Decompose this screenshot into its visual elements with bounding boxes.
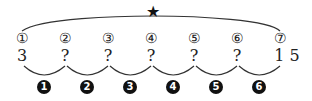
step-arc-1 [24,66,65,75]
position-5: ⑤ [184,30,204,46]
step-arc-6 [239,66,280,75]
position-7: ⑦ [270,30,290,46]
step-badge-1: 1 [37,80,51,94]
step-badge-6: 6 [252,80,266,94]
value-1: 3 [17,47,27,65]
position-3: ③ [98,30,118,46]
position-6: ⑥ [227,30,247,46]
position-2: ② [55,30,75,46]
step-arc-5 [196,66,237,75]
step-arc-3 [110,66,151,75]
value-4: ? [147,47,156,65]
step-badge-2: 2 [80,80,94,94]
step-badge-4: 4 [166,80,180,94]
position-1: ① [12,30,32,46]
value-5: ? [190,47,199,65]
value-6: ? [233,47,242,65]
position-4: ④ [141,30,161,46]
step-badge-3: 3 [123,80,137,94]
value-7: 1 5 [274,47,299,65]
value-2: ? [61,47,70,65]
step-arc-4 [153,66,194,75]
step-arc-2 [67,66,108,75]
step-badge-5: 5 [209,80,223,94]
value-3: ? [104,47,113,65]
star-icon: ★ [146,4,160,20]
